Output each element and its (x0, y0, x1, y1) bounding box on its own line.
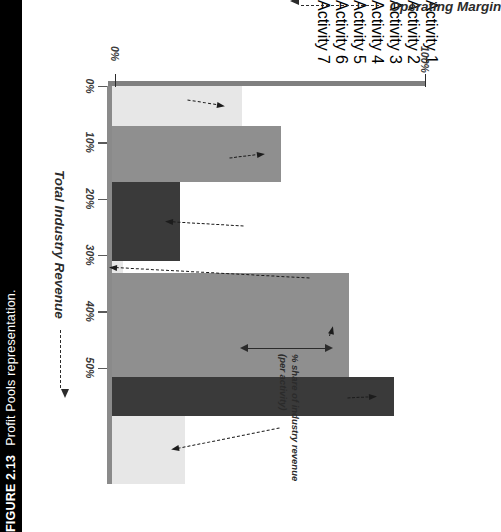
plot-area (112, 86, 422, 484)
x-axis-title-text: Total Industry Revenue (52, 170, 67, 319)
figure-number: FIGURE 2.13 (4, 455, 18, 532)
y-axis-title-text: Operating Margin (390, 0, 501, 14)
bracket-line (247, 348, 327, 349)
callout-arrow-icon-activity-4 (109, 264, 117, 270)
revenue-tick-label-100: 100% (419, 46, 431, 73)
x-axis-title: Total Industry Revenue (52, 170, 68, 398)
x-axis-arrow-icon (61, 389, 69, 398)
callout-arrow-icon-activity-6 (369, 393, 377, 399)
margin-tick-label-20: 20% (84, 188, 96, 209)
y-axis-dash (301, 5, 379, 6)
margin-tick-30 (98, 255, 107, 256)
revenue-tick-0 (115, 74, 116, 87)
margin-tick-label-10: 10% (84, 132, 96, 153)
margin-tick-0 (98, 86, 107, 87)
revenue-tick-label-0: 0% (109, 46, 121, 61)
profit-pools-chart: 0%100% 0%10%20%30%40%50% Total Industry … (24, 0, 440, 532)
margin-tick-10 (98, 142, 107, 143)
bar-activity-5 (112, 273, 349, 376)
callout-arrow-icon-activity-3 (165, 218, 173, 224)
margin-tick-label-50: 50% (84, 357, 96, 378)
margin-tick-50 (98, 368, 107, 369)
margin-tick-label-0: 0% (84, 78, 96, 93)
bracket-label-line2: (per activity) (277, 354, 289, 504)
revenue-axis-line (108, 81, 426, 86)
margin-tick-40 (98, 311, 107, 312)
bracket-arrow-start-icon (325, 344, 333, 352)
figure-caption: FIGURE 2.13 Profit Pools representation. (0, 0, 22, 532)
bracket-label-line1: % share of industry revenue (289, 354, 301, 504)
callout-arrow-icon-activity-1 (217, 102, 226, 109)
y-axis-title: Operating Margin (290, 0, 501, 14)
margin-tick-label-40: 40% (84, 301, 96, 322)
margin-tick-label-30: 30% (84, 245, 96, 266)
x-axis-dash (60, 330, 61, 388)
revenue-tick-100 (425, 74, 426, 87)
figure-caption-bar: FIGURE 2.13 Profit Pools representation. (0, 0, 22, 532)
callout-arrow-icon-activity-2 (256, 151, 265, 158)
margin-axis-line (107, 86, 112, 484)
y-axis-arrow-icon (290, 0, 299, 5)
bracket-label: % share of industry revenue(per activity… (277, 354, 301, 504)
margin-tick-20 (98, 199, 107, 200)
bracket-arrow-end-icon (240, 344, 248, 352)
bar-activity-2 (112, 126, 281, 182)
figure-caption-text: Profit Pools representation. (4, 289, 18, 445)
chart-rotation-wrapper: 0%100% 0%10%20%30%40%50% Total Industry … (24, 0, 440, 532)
